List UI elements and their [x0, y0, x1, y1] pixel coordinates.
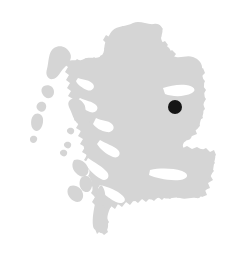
- barra: [30, 136, 37, 143]
- north-uist: [41, 85, 54, 98]
- small-island-tiree: [60, 150, 67, 157]
- marker-group[interactable]: [168, 100, 182, 114]
- small-island-rum: [67, 128, 74, 135]
- small-island-coll: [64, 142, 71, 149]
- mainland-body: [68, 22, 215, 233]
- location-marker-dot[interactable]: [168, 100, 182, 114]
- solway-inlet: [111, 227, 148, 237]
- map-canvas: [0, 0, 230, 271]
- south-uist: [31, 113, 43, 131]
- landmass-group: [30, 22, 216, 236]
- benbecula: [37, 102, 47, 112]
- isle-of-lewis-harris: [46, 46, 71, 79]
- scotland-locator-map: Scotland: [0, 0, 230, 271]
